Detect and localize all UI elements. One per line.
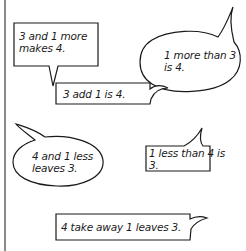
- bubble-6-line-1: 4 take away 1 leaves 3.: [61, 221, 181, 233]
- bubble-5-line-2: 3.: [149, 159, 225, 171]
- bubble-2-line-1: 1 more than 3: [164, 49, 236, 61]
- bubble-1-line-2: makes 4.: [19, 42, 87, 54]
- speech-bubble-6-text: 4 take away 1 leaves 3.: [61, 221, 181, 233]
- bubble-5-line-1: 1 less than 4 is: [149, 147, 225, 159]
- speech-bubble-3-text: 3 add 1 is 4.: [63, 88, 125, 100]
- speech-bubble-2-text: 1 more than 3 is 4.: [164, 49, 236, 73]
- speech-bubble-4-text: 4 and 1 less leaves 3.: [32, 150, 93, 174]
- bubble-4-line-2: leaves 3.: [32, 162, 93, 174]
- bubble-2-line-2: is 4.: [164, 61, 236, 73]
- speech-bubble-5-text: 1 less than 4 is 3.: [149, 147, 225, 171]
- bubble-4-line-1: 4 and 1 less: [32, 150, 93, 162]
- speech-bubble-1-text: 3 and 1 more makes 4.: [19, 30, 87, 54]
- bubble-3-line-1: 3 add 1 is 4.: [63, 88, 125, 100]
- bubble-1-line-1: 3 and 1 more: [19, 30, 87, 42]
